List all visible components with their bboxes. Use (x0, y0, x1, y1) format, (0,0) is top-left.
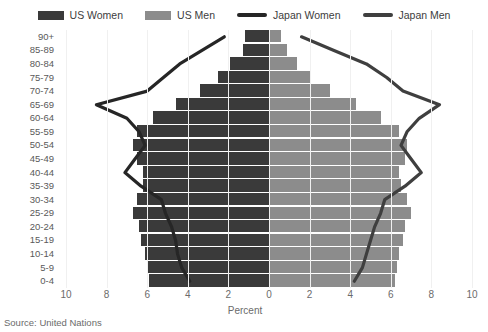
age-label-45-49: 45-49 (0, 154, 54, 164)
x-tick-10: 10 (457, 290, 487, 300)
gridline-10 (472, 30, 473, 288)
age-label-35-39: 35-39 (0, 181, 54, 191)
age-label-70-74: 70-74 (0, 86, 54, 96)
age-label-5-9: 5-9 (0, 263, 54, 273)
legend-japan-women-label: Japan Women (273, 10, 341, 21)
japan-men-line (302, 37, 440, 281)
gridline-4 (350, 30, 351, 288)
age-label-75-79: 75-79 (0, 73, 54, 83)
age-label-10-14: 10-14 (0, 249, 54, 259)
gridline--2 (228, 30, 229, 288)
x-tick-8: 6 (376, 290, 406, 300)
x-tick-6: 2 (295, 290, 325, 300)
x-tick-1: 8 (92, 290, 122, 300)
x-tick-3: 4 (173, 290, 203, 300)
age-label-85-89: 85-89 (0, 45, 54, 55)
age-label-30-34: 30-34 (0, 195, 54, 205)
age-label-25-29: 25-29 (0, 208, 54, 218)
legend-japan-women[interactable]: Japan Women (237, 10, 341, 21)
gridline-8 (431, 30, 432, 288)
age-label-80-84: 80-84 (0, 59, 54, 69)
chart-legend: US WomenUS MenJapan WomenJapan Men (0, 6, 488, 24)
age-label-40-44: 40-44 (0, 168, 54, 178)
age-label-65-69: 65-69 (0, 100, 54, 110)
x-axis-title: Percent (0, 305, 488, 316)
x-tick-2: 6 (132, 290, 162, 300)
plot-area (66, 30, 472, 288)
x-tick-0: 10 (51, 290, 81, 300)
age-group-axis-labels: 0-45-910-1415-1920-2425-2930-3435-3940-4… (0, 30, 62, 288)
legend-us-women[interactable]: US Women (38, 10, 124, 21)
x-axis-title-text: Percent (228, 305, 262, 316)
legend-japan-women-line-icon (237, 13, 267, 17)
age-label-60-64: 60-64 (0, 113, 54, 123)
gridline--8 (107, 30, 108, 288)
source-note: Source: United Nations (4, 317, 102, 328)
age-label-55-59: 55-59 (0, 127, 54, 137)
legend-japan-men-label: Japan Men (399, 10, 451, 21)
legend-us-men-label: US Men (177, 10, 215, 21)
x-tick-7: 4 (335, 290, 365, 300)
japan-women-line (96, 37, 224, 281)
age-label-15-19: 15-19 (0, 235, 54, 245)
gridline--6 (147, 30, 148, 288)
gridline-2 (310, 30, 311, 288)
age-label-90plus: 90+ (0, 32, 54, 42)
gridline-6 (391, 30, 392, 288)
age-label-50-54: 50-54 (0, 140, 54, 150)
legend-japan-men-line-icon (363, 13, 393, 17)
legend-japan-men[interactable]: Japan Men (363, 10, 451, 21)
x-tick-5: 0 (254, 290, 284, 300)
percent-axis: 1086420246810 (0, 290, 488, 306)
x-tick-9: 8 (416, 290, 446, 300)
gridline-0 (269, 30, 270, 288)
legend-us-women-swatch-icon (38, 11, 64, 20)
legend-us-women-label: US Women (70, 10, 124, 21)
legend-us-men[interactable]: US Men (145, 10, 215, 21)
age-label-0-4: 0-4 (0, 276, 54, 286)
gridline--10 (66, 30, 67, 288)
age-label-20-24: 20-24 (0, 222, 54, 232)
population-pyramid-chart: US WomenUS MenJapan WomenJapan Men 0-45-… (0, 0, 488, 332)
gridline--4 (188, 30, 189, 288)
x-tick-4: 2 (213, 290, 243, 300)
legend-us-men-swatch-icon (145, 11, 171, 20)
